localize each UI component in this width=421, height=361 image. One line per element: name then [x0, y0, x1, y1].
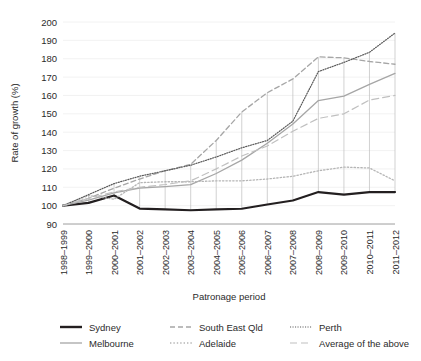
y-tick-label: 190 [41, 35, 57, 46]
x-tick-label: 2010–2011 [365, 230, 375, 274]
y-tick-label: 180 [41, 53, 57, 64]
x-tick-label: 2008–2009 [314, 230, 324, 275]
x-tick-label: 2011–2012 [391, 230, 401, 274]
x-tick-label: 2007–2008 [288, 230, 298, 275]
x-tick-label: 1998–1999 [59, 230, 69, 275]
legend-label-south-east-qld: South East Qld [199, 322, 263, 333]
legend-label-average-of-the-above: Average of the above [319, 338, 409, 349]
legend-label-sydney: Sydney [89, 322, 121, 333]
chart-canvas: 200190180170160150140130120110100901998–… [0, 0, 421, 361]
series-line-sydney [63, 192, 395, 210]
y-tick-label: 200 [41, 17, 57, 28]
series-line-melbourne [63, 73, 395, 205]
growth-rate-line-chart: 200190180170160150140130120110100901998–… [0, 0, 421, 361]
series-line-south-east-qld [63, 57, 395, 206]
x-tick-label: 2004–2005 [212, 230, 222, 275]
y-tick-label: 150 [41, 108, 57, 119]
x-tick-label: 2009–2010 [339, 230, 349, 275]
y-tick-label: 140 [41, 127, 57, 138]
x-tick-label: 2000–2001 [110, 230, 120, 275]
x-tick-label: 2005–2006 [237, 230, 247, 275]
legend-label-melbourne: Melbourne [89, 338, 134, 349]
x-tick-label: 2002–2003 [161, 230, 171, 275]
x-tick-label: 2006–2007 [263, 230, 273, 275]
y-tick-label: 90 [46, 219, 57, 230]
y-tick-label: 110 [42, 182, 57, 193]
y-axis-title: Rate of growth (%) [9, 83, 20, 162]
y-tick-label: 130 [41, 145, 57, 156]
x-tick-label: 1999–2000 [84, 230, 94, 275]
y-tick-label: 160 [41, 90, 57, 101]
y-tick-label: 170 [41, 72, 57, 83]
x-tick-label: 2003–2004 [186, 230, 196, 275]
x-axis-title: Patronage period [193, 291, 266, 302]
x-tick-label: 2001–2002 [135, 230, 145, 275]
legend-label-perth: Perth [319, 322, 342, 333]
y-tick-label: 100 [41, 200, 57, 211]
series-line-adelaide [63, 167, 395, 206]
legend-label-adelaide: Adelaide [199, 338, 236, 349]
y-tick-label: 120 [41, 163, 57, 174]
